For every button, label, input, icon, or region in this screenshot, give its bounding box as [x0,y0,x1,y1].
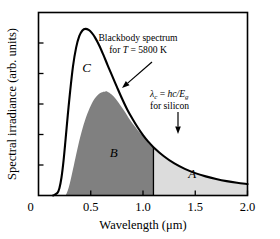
blackbody-spectrum-figure: 0.51.01.52.0 0 Wavelength (μm) Spectral … [0,0,280,239]
blackbody-annotation-line1: Blackbody spectrum [98,32,178,43]
x-tick-label: 1.0 [135,200,151,214]
x-tick-label: 2.0 [240,200,256,214]
x-axis-title: Wavelength (μm) [99,218,186,232]
region-c-label: C [82,60,91,75]
region-a-sub-bandgap-loss [153,147,247,195]
blackbody-annotation-arrow [128,62,152,83]
region-b-label: B [110,145,118,160]
blackbody-annotation-line2: for T = 5800 K [109,44,167,55]
x-axis-tick-labels: 0.51.01.52.0 [83,200,255,214]
cutoff-arrowhead-icon [175,127,181,135]
cutoff-annotation-line2: for silicon [150,100,189,111]
x-tick-label: 0.5 [83,200,99,214]
chart-canvas: 0.51.01.52.0 0 Wavelength (μm) Spectral … [0,0,280,239]
x-tick-label: 1.5 [187,200,203,214]
y-axis-title: Spectral irradiance (arb. units) [5,28,19,180]
region-a-label: A [187,166,196,181]
x-origin-label: 0 [27,200,33,214]
region-b-converted-energy [66,91,154,195]
